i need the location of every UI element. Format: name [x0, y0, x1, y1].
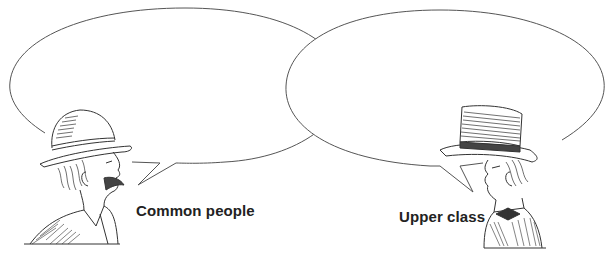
- mustache-icon: [104, 177, 124, 190]
- figure-canvas: [0, 0, 615, 259]
- label-common-people: Common people: [136, 202, 255, 219]
- label-upper-class: Upper class: [399, 208, 485, 225]
- speech-bubble-upper: [286, 10, 604, 192]
- bow-tie-icon: [496, 208, 520, 220]
